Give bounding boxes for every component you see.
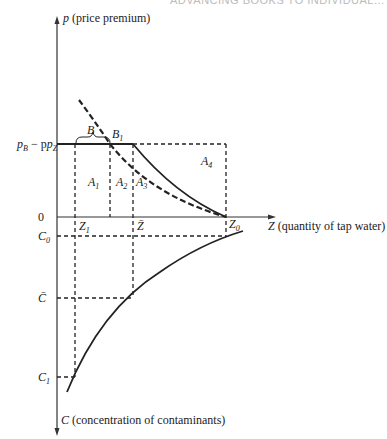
vertical-axis [55, 16, 60, 436]
zbar-label: Z̄ [137, 219, 144, 233]
svg-text:p (price premium): p (price premium) [62, 11, 150, 25]
svg-text:Z (quantity of tap water): Z (quantity of tap water) [268, 219, 385, 233]
cbar-label: C̄ [38, 291, 47, 305]
area-a2-label: A2 [115, 175, 127, 191]
x-axis-label: Z (quantity of tap water) [268, 219, 385, 233]
point-b1-label: B1 [112, 127, 123, 143]
z1-label: Z1 [79, 219, 90, 235]
supply-curve-solid [133, 144, 226, 217]
arrow-up-icon [55, 16, 60, 24]
diagram-canvas: p (price premium) Z (quantity of tap wat… [0, 0, 387, 439]
y-bottom-axis-label: C (concentration of contaminants) [61, 413, 225, 427]
z0-label: Z0 [229, 217, 240, 233]
arrow-down-icon [55, 428, 60, 436]
area-a4-label: A4 [200, 154, 212, 170]
c1-label: C1 [38, 370, 50, 386]
z-axis [57, 215, 276, 220]
price-diff-label: pB − ppZ [16, 137, 58, 153]
point-b-label: B [87, 123, 95, 137]
svg-text:C (concentration of contaminan: C (concentration of contaminants) [61, 413, 225, 427]
contamination-curve [67, 231, 243, 392]
origin-label: 0 [38, 210, 44, 224]
area-a1-label: A1 [87, 175, 99, 191]
y-top-axis-label: p (price premium) [62, 11, 150, 25]
c0-label: C0 [38, 229, 50, 245]
